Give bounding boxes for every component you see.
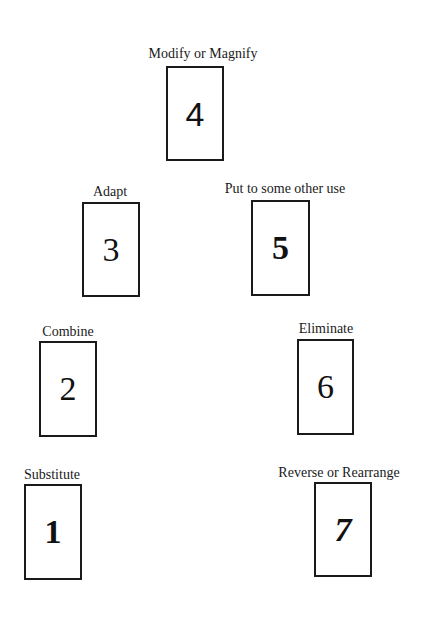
card-label-substitute: Substitute [24, 468, 80, 482]
card-number: 6 [317, 370, 334, 404]
card-4: 4 [166, 66, 224, 161]
card-number: 3 [103, 233, 120, 267]
card-2: 2 [39, 341, 97, 437]
card-label-eliminate: Eliminate [299, 322, 353, 336]
scamper-diagram: Modify or Magnify 4 Adapt 3 Put to some … [0, 0, 430, 619]
card-label-modify-or-magnify: Modify or Magnify [149, 47, 258, 61]
card-label-reverse-or-rearrange: Reverse or Rearrange [278, 466, 399, 480]
card-label-put-to-some-other-use: Put to some other use [225, 182, 346, 196]
card-number: 2 [60, 372, 77, 406]
card-1: 1 [24, 484, 82, 580]
card-number: 4 [186, 97, 205, 131]
card-number: 7 [335, 513, 352, 547]
card-7: 7 [314, 482, 372, 577]
card-5: 5 [251, 200, 310, 296]
card-number: 5 [272, 231, 289, 265]
card-label-combine: Combine [42, 325, 93, 339]
card-3: 3 [82, 202, 140, 297]
card-6: 6 [297, 339, 354, 435]
card-number: 1 [45, 515, 62, 549]
card-label-adapt: Adapt [93, 185, 127, 199]
